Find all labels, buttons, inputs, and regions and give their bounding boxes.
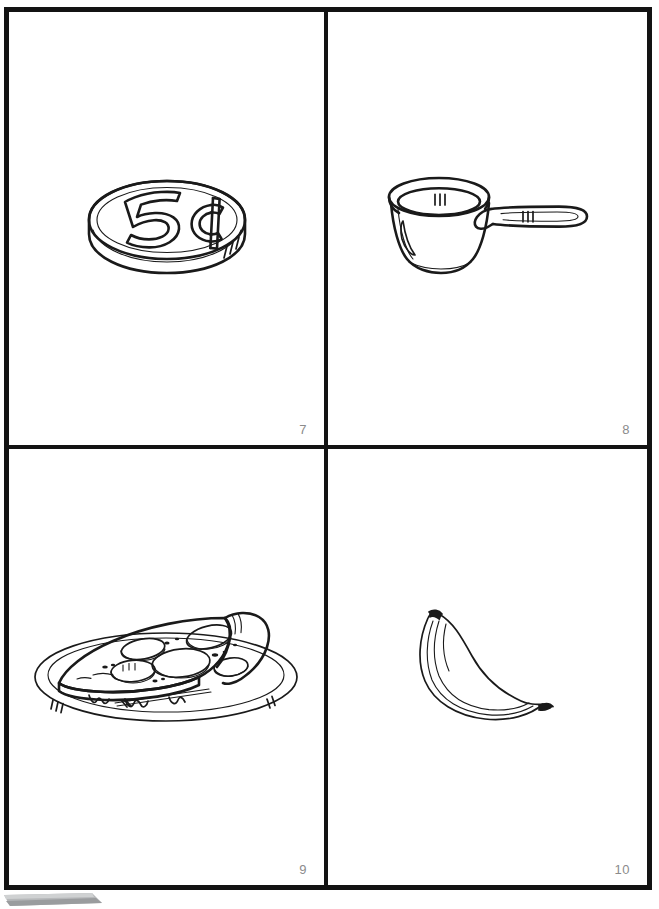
panel-grid: 7 <box>9 12 647 885</box>
page-frame: 7 <box>4 7 652 890</box>
measuring-cup-illustration <box>328 12 647 445</box>
banana-illustration <box>328 449 647 886</box>
panel-7[interactable]: 7 <box>9 12 328 449</box>
scanner-shadow-artifact <box>4 893 102 906</box>
pizza-slice-illustration <box>9 449 324 886</box>
panel-9[interactable]: 9 <box>9 449 328 886</box>
page-number: 10 <box>615 863 630 876</box>
page-number: 8 <box>622 423 630 436</box>
panel-8[interactable]: 8 <box>328 12 647 449</box>
nickel-coin-illustration <box>9 12 324 445</box>
panel-10[interactable]: 10 <box>328 449 647 886</box>
page-number: 7 <box>299 423 307 436</box>
worksheet-page: 7 <box>0 0 659 909</box>
page-number: 9 <box>299 863 307 876</box>
